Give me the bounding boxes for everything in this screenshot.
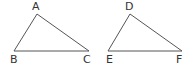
triangle-abc: A B C xyxy=(10,0,91,66)
triangle-abc-shape xyxy=(14,14,89,51)
triangle-diagram: A B C D E F xyxy=(0,0,186,69)
vertex-label-d: D xyxy=(125,0,133,13)
vertex-label-f: F xyxy=(176,53,182,66)
vertex-label-c: C xyxy=(83,53,91,66)
triangle-def: D E F xyxy=(106,0,182,66)
triangle-def-shape xyxy=(108,14,182,51)
vertex-label-b: B xyxy=(10,53,18,66)
vertex-label-e: E xyxy=(106,53,113,66)
vertex-label-a: A xyxy=(32,0,40,13)
